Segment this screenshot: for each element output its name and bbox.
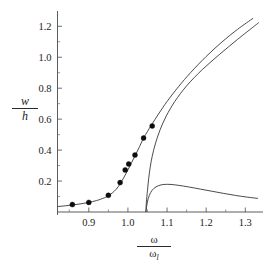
x-tick-label-0: 0.9 — [82, 217, 95, 228]
y-tick-label-1: 0.4 — [38, 145, 52, 156]
y-axis-label-numerator: w — [12, 95, 38, 107]
y-axis-label: w h — [12, 95, 38, 122]
x-tick-label-4: 1.3 — [239, 217, 252, 228]
y-axis-label-denominator: h — [12, 110, 38, 122]
x-axis-label-denominator-base: ω — [149, 247, 156, 259]
y-tick-label-0: 0.2 — [38, 176, 51, 187]
data-point-4 — [123, 167, 128, 172]
x-axis-label-numerator: ω — [137, 234, 171, 245]
data-point-6 — [132, 153, 137, 158]
backbone-curve — [146, 22, 259, 212]
x-axis-label: ω ωl — [137, 234, 171, 262]
data-point-8 — [150, 123, 155, 128]
chart-figure: 0.91.01.11.21.30.20.40.60.81.01.2 w h ω … — [0, 0, 265, 279]
x-axis-label-denominator-subscript: l — [157, 253, 159, 262]
data-point-1 — [86, 200, 91, 205]
y-tick-label-5: 1.2 — [38, 21, 51, 32]
data-point-2 — [106, 193, 111, 198]
x-tick-label-2: 1.1 — [160, 217, 173, 228]
y-tick-label-4: 1.0 — [38, 52, 51, 63]
x-tick-label-1: 1.0 — [121, 217, 134, 228]
upper-branch-curve — [58, 18, 254, 206]
x-tick-label-3: 1.2 — [200, 217, 213, 228]
data-point-0 — [70, 202, 75, 207]
data-point-7 — [141, 136, 146, 141]
data-point-3 — [118, 180, 123, 185]
data-point-5 — [126, 162, 131, 167]
y-tick-label-3: 0.8 — [38, 83, 51, 94]
frequency-response-plot: 0.91.01.11.21.30.20.40.60.81.01.2 — [0, 0, 265, 279]
x-axis-label-denominator: ωl — [137, 248, 171, 262]
y-tick-label-2: 0.6 — [38, 114, 51, 125]
lower-branch-curve — [146, 184, 258, 212]
